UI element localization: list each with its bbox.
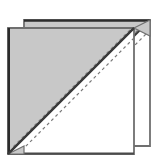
quilt-diagram-canvas: Half-square triangle stitching diagram T… bbox=[0, 0, 158, 162]
quilt-diagram-figure: Half-square triangle stitching diagram T… bbox=[0, 0, 158, 162]
